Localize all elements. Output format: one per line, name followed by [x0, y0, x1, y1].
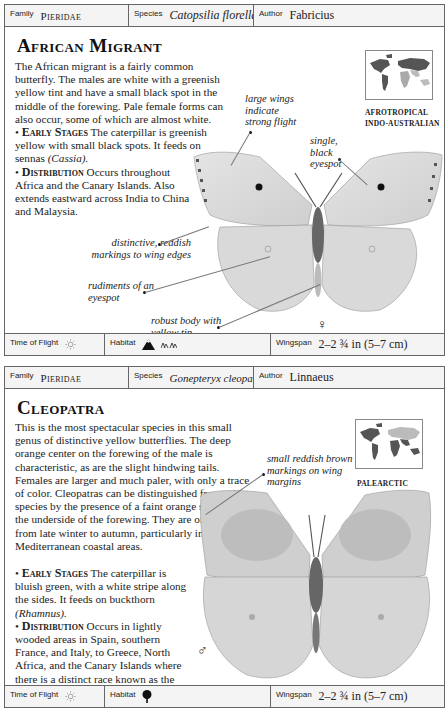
habitat-label: Habitat [110, 338, 135, 347]
family-value: Pieridae [41, 10, 82, 22]
world-map-icon [366, 51, 433, 100]
species-card-african-migrant: Family Pieridae Species Catopsilia flore… [4, 4, 445, 356]
sun-icon [65, 691, 76, 702]
female-symbol: ♀ [317, 317, 328, 333]
early-stages-heading: Early Stages [22, 125, 88, 139]
time-of-flight-label: Time of Flight [10, 690, 58, 699]
wingspan-value: 2–2 ¾ in (5–7 cm) [319, 689, 408, 704]
male-symbol: ♂ [197, 643, 208, 659]
family-label: Family [10, 371, 34, 380]
species-title: African Migrant [17, 35, 162, 57]
author-cell: Author Fabricius [254, 5, 444, 26]
habitat-label: Habitat [110, 690, 135, 699]
family-cell: Family Pieridae [5, 5, 129, 26]
wingspan-cell: Wingspan 2–2 ¾ in (5–7 cm) [271, 686, 444, 707]
wingspan-cell: Wingspan 2–2 ¾ in (5–7 cm) [271, 334, 444, 355]
species-label: Species [134, 371, 162, 380]
wingspan-label: Wingspan [276, 690, 312, 699]
author-cell: Author Linnaeus [254, 367, 444, 388]
habitat-cell: Habitat [105, 334, 271, 355]
card-header: Family Pieridae Species Catopsilia flore… [5, 5, 444, 27]
intro-paragraph: The African migrant is a fairly common b… [15, 60, 233, 126]
mountain-icon [142, 339, 155, 350]
wingspan-value: 2–2 ¾ in (5–7 cm) [319, 337, 408, 352]
distribution-heading: Distribution [22, 165, 84, 179]
species-value: Catopsilia florella [169, 8, 254, 23]
author-value: Linnaeus [290, 370, 334, 385]
species-value: Gonepteryx cleopatra [169, 372, 254, 384]
habitat-cell: Habitat [105, 686, 271, 707]
species-card-cleopatra: Family Pieridae Species Gonepteryx cleop… [4, 366, 445, 708]
annotation-markings: distinctive, reddish markings to wing ed… [76, 237, 191, 260]
tree-icon [142, 690, 152, 703]
species-cell: Species Gonepteryx cleopatra [129, 367, 254, 388]
grassland-icon [161, 342, 177, 348]
sun-icon [65, 339, 76, 350]
butterfly-illustration [190, 145, 446, 315]
card-footer: Time of Flight Habitat Wingspan 2–2 ¾ in… [5, 685, 444, 707]
time-of-flight-cell: Time of Flight [5, 334, 105, 355]
early-stages-heading: Early Stages [22, 566, 88, 580]
region-label: AFROTROPICAL [365, 107, 428, 118]
family-cell: Family Pieridae [5, 367, 129, 388]
time-of-flight-label: Time of Flight [10, 338, 58, 347]
family-value: Pieridae [41, 372, 82, 384]
author-value: Fabricius [290, 8, 335, 23]
species-label: Species [134, 9, 162, 18]
species-description-continued: • Early Stages The caterpillar is bluish… [15, 567, 195, 699]
butterfly-illustration [197, 485, 437, 685]
wingspan-label: Wingspan [276, 338, 312, 347]
species-cell: Species Catopsilia florella [129, 5, 254, 26]
author-label: Author [259, 9, 283, 18]
author-label: Author [259, 371, 283, 380]
early-stages-genus: (Rhamnus). [15, 607, 67, 619]
early-stages-paragraph: • Early Stages The caterpillar is bluish… [15, 567, 195, 620]
annotation-large-wings: large wings indicate strong flight [245, 93, 305, 128]
annotation-margins: small reddish brown markings on wing mar… [267, 453, 367, 488]
card-footer: Time of Flight Habitat Wings [5, 333, 444, 355]
annotation-eyespot: single, black eyespot [310, 135, 355, 170]
distribution-paragraph: • Distribution Occurs throughout Africa … [15, 166, 200, 219]
time-of-flight-cell: Time of Flight [5, 686, 105, 707]
family-label: Family [10, 9, 34, 18]
distribution-heading: Distribution [22, 619, 84, 633]
region-label: INDO-AUSTRALIAN [365, 118, 440, 129]
card-header: Family Pieridae Species Gonepteryx cleop… [5, 367, 444, 389]
early-stages-genus: (Cassia). [48, 152, 89, 164]
species-title: Cleopatra [17, 397, 105, 419]
distribution-map [365, 50, 433, 100]
